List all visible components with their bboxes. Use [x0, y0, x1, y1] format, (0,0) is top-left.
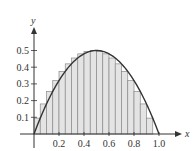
- riemann-rectangle: [128, 81, 134, 134]
- riemann-rectangle: [103, 54, 109, 134]
- riemann-rectangle: [84, 51, 90, 134]
- y-axis-label: y: [30, 15, 36, 26]
- y-tick-label: 0.2: [17, 95, 30, 106]
- riemann-rectangle: [40, 104, 46, 134]
- x-axis-arrow-icon: [175, 131, 182, 137]
- y-tick-label: 0.1: [17, 112, 30, 123]
- riemann-rectangle: [109, 58, 115, 134]
- riemann-rectangle: [122, 71, 128, 134]
- riemann-rectangle: [65, 64, 71, 134]
- riemann-rectangle: [59, 71, 65, 134]
- riemann-rectangle: [147, 118, 153, 134]
- riemann-rectangle: [78, 54, 84, 134]
- x-tick-label: 0.2: [53, 138, 66, 149]
- y-tick-label: 0.4: [17, 62, 30, 73]
- riemann-rectangle: [72, 58, 78, 134]
- x-tick-label: 0.4: [78, 138, 91, 149]
- riemann-rectangle: [97, 51, 103, 134]
- riemann-sum-chart: x y 0.10.20.30.40.5 0.20.40.60.81.0: [0, 0, 193, 151]
- y-axis-arrow-icon: [31, 27, 37, 34]
- riemann-rectangle: [90, 51, 96, 135]
- x-ticks: 0.20.40.60.81.0: [53, 132, 166, 149]
- riemann-rectangle: [115, 64, 121, 134]
- riemann-rectangle: [140, 104, 146, 134]
- y-tick-label: 0.5: [17, 45, 30, 56]
- y-tick-label: 0.3: [17, 78, 30, 89]
- x-tick-label: 1.0: [153, 138, 166, 149]
- x-tick-label: 0.6: [103, 138, 116, 149]
- x-tick-label: 0.8: [128, 138, 141, 149]
- x-axis-label: x: [184, 128, 190, 139]
- riemann-rectangle: [134, 91, 140, 134]
